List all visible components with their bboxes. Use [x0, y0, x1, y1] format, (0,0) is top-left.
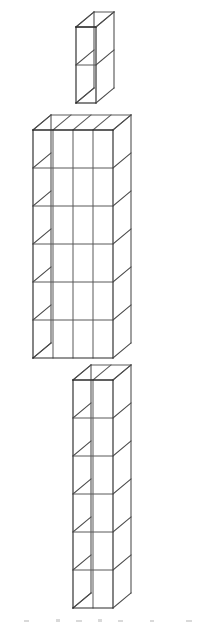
- part-torso: [33, 115, 131, 358]
- baseline-mark: [98, 619, 102, 622]
- baseline-mark: [56, 619, 60, 622]
- baseline-mark: [118, 620, 123, 622]
- isometric-cube-figure: [0, 0, 208, 625]
- baseline-mark: [150, 620, 154, 622]
- cube-figure-canvas: [0, 0, 208, 625]
- baseline-mark: [76, 620, 82, 622]
- baseline-mark: [24, 620, 29, 622]
- part-head: [76, 12, 114, 103]
- part-legs: [73, 365, 131, 608]
- baseline-mark: [186, 620, 192, 622]
